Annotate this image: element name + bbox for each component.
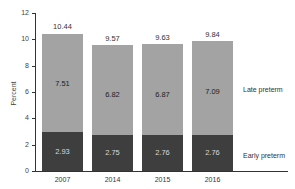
y-tick-label: 2 xyxy=(9,141,29,149)
early-preterm-segment: 2.76 xyxy=(142,135,183,171)
stacked-bar-chart: Percent 0 2 4 6 8 10 12 10.44 7.51 2.93 … xyxy=(0,0,295,189)
x-category-label: 2014 xyxy=(92,176,133,183)
y-tick xyxy=(32,66,36,67)
y-tick-label: 8 xyxy=(9,62,29,70)
segment-value: 7.09 xyxy=(192,87,233,96)
x-category-label: 2015 xyxy=(142,176,183,183)
y-tick-label: 6 xyxy=(9,88,29,96)
segment-value: 2.93 xyxy=(42,147,83,156)
y-tick-label: 12 xyxy=(9,9,29,17)
late-preterm-segment: 7.51 xyxy=(42,34,83,132)
segment-value: 2.75 xyxy=(92,148,133,157)
x-category-label: 2007 xyxy=(42,176,83,183)
late-preterm-segment: 6.82 xyxy=(92,45,133,135)
late-preterm-segment: 6.87 xyxy=(142,44,183,135)
bar-2007: 7.51 2.93 xyxy=(42,34,83,171)
x-category-label: 2016 xyxy=(192,176,233,183)
late-preterm-segment: 7.09 xyxy=(192,41,233,135)
bar-2016: 7.09 2.76 xyxy=(192,41,233,171)
y-tick xyxy=(32,92,36,93)
y-tick-label: 0 xyxy=(9,167,29,175)
y-tick xyxy=(32,13,36,14)
segment-value: 6.82 xyxy=(92,90,133,99)
segment-value: 2.76 xyxy=(142,148,183,157)
y-tick xyxy=(32,118,36,119)
y-tick-label: 4 xyxy=(9,114,29,122)
bar-total-label: 9.63 xyxy=(142,33,183,42)
early-preterm-segment: 2.75 xyxy=(92,135,133,171)
bar-total-label: 9.84 xyxy=(192,30,233,39)
bar-2014: 6.82 2.75 xyxy=(92,45,133,171)
segment-value: 6.87 xyxy=(142,90,183,99)
bar-2015: 6.87 2.76 xyxy=(142,44,183,171)
legend-late-preterm: Late preterm xyxy=(243,86,283,93)
early-preterm-segment: 2.76 xyxy=(192,135,233,171)
bar-total-label: 10.44 xyxy=(42,22,83,31)
segment-value: 7.51 xyxy=(42,79,83,88)
y-tick xyxy=(32,145,36,146)
early-preterm-segment: 2.93 xyxy=(42,132,83,171)
x-axis xyxy=(35,171,288,172)
bar-total-label: 9.57 xyxy=(92,34,133,43)
legend-early-preterm: Early preterm xyxy=(243,152,285,159)
y-tick-label: 10 xyxy=(9,35,29,43)
y-tick xyxy=(32,171,36,172)
y-tick xyxy=(32,39,36,40)
segment-value: 2.76 xyxy=(192,148,233,157)
